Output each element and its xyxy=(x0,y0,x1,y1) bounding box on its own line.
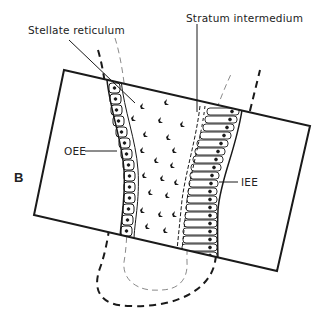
label-iee: IEE xyxy=(241,176,258,188)
label-oee: OEE xyxy=(64,145,86,157)
label-stratum-intermedium: Stratum intermedium xyxy=(186,12,303,24)
panel-letter: B xyxy=(14,170,23,185)
label-stellate-reticulum: Stellate reticulum xyxy=(28,24,125,36)
tooth-germ-diagram xyxy=(0,0,328,324)
diagram-stage: Stellate reticulum Stratum intermedium O… xyxy=(0,0,328,324)
